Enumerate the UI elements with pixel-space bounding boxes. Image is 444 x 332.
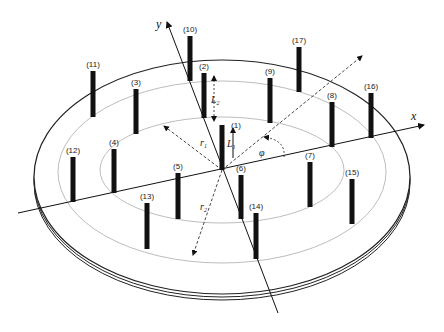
rod-array-diagram: x y r1 r2 L1 L2 φ (1)(2)(3)(4)(5)(6)(7)(…: [0, 0, 444, 332]
rod-17: [297, 47, 302, 92]
rod-10: [188, 36, 193, 81]
rod-16: [369, 93, 374, 138]
rod-3: [134, 89, 139, 134]
rod-label-9: (9): [265, 67, 275, 76]
rod-label-10: (10): [183, 25, 198, 34]
rod-7: [308, 162, 313, 207]
rod-2: [202, 73, 207, 118]
phi-label: φ: [259, 147, 265, 158]
y-axis-label: y: [155, 17, 162, 31]
rod-label-13: (13): [140, 192, 155, 201]
rod-15: [350, 179, 355, 224]
x-axis-label: x: [410, 109, 417, 123]
rod-13: [145, 203, 150, 249]
rod-label-12: (12): [66, 146, 81, 155]
rod-label-6: (6): [236, 164, 246, 173]
rod-label-1: (1): [231, 121, 241, 130]
rod-label-2: (2): [199, 62, 209, 71]
rod-9: [268, 78, 273, 123]
rod-1: [220, 125, 225, 170]
rod-14: [254, 213, 259, 259]
rod-8: [330, 102, 335, 147]
rod-5: [176, 173, 181, 219]
rod-label-4: (4): [109, 138, 119, 147]
rod-label-11: (11): [86, 60, 100, 69]
rod-label-14: (14): [249, 202, 264, 211]
disk-top-edge: [34, 60, 410, 294]
rod-label-15: (15): [345, 168, 360, 177]
rod-label-8: (8): [327, 91, 337, 100]
rod-label-3: (3): [131, 78, 141, 87]
rod-6: [239, 175, 244, 219]
rod-11: [91, 71, 96, 117]
rod-label-7: (7): [305, 151, 315, 160]
rod-label-5: (5): [173, 162, 183, 171]
rod-label-17: (17): [292, 36, 307, 45]
rod-12: [71, 157, 76, 202]
rod-4: [112, 149, 117, 193]
rod-label-16: (16): [364, 82, 379, 91]
